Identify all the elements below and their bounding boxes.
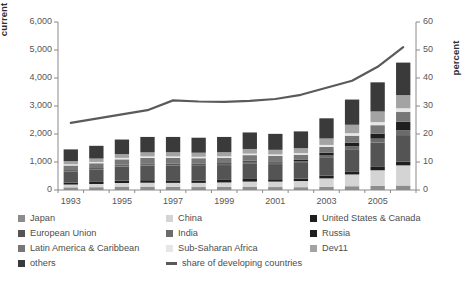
bar-segment <box>217 165 231 180</box>
bar-segment <box>294 148 308 153</box>
y-tick-label-left: 6,000 <box>6 16 52 26</box>
bar-segment <box>243 179 257 182</box>
bar-segment <box>243 187 257 190</box>
bar-segment <box>166 165 180 166</box>
x-tick-label: 2003 <box>304 196 350 206</box>
bar-segment <box>140 156 154 158</box>
y-tick-label-right: 10 <box>423 156 457 166</box>
legend-item[interactable]: Japan <box>18 214 55 223</box>
bar-segment <box>115 159 129 164</box>
bar-segment <box>115 187 129 190</box>
bar-segment <box>140 152 154 156</box>
bar-segment <box>370 134 384 139</box>
bar-segment <box>396 135 410 162</box>
bar-segment <box>396 122 410 130</box>
bar-segment <box>191 165 205 166</box>
bar-segment <box>345 174 359 186</box>
bar-segment <box>89 184 103 187</box>
bar-segment <box>140 187 154 190</box>
bar-segment <box>345 125 359 133</box>
plot-area <box>58 22 416 190</box>
bar-segment <box>217 180 231 183</box>
bar-segment <box>166 158 180 164</box>
bar-stack <box>396 63 410 190</box>
legend-item[interactable]: Latin America & Caribbean <box>18 244 139 253</box>
y-tick-label-left: 1,000 <box>6 156 52 166</box>
bar-stack <box>89 146 103 190</box>
bar-segment <box>243 162 257 164</box>
bar-segment <box>294 161 308 163</box>
bar-segment <box>191 166 205 181</box>
bar-segment <box>370 167 384 170</box>
legend-color-swatch <box>166 230 173 237</box>
legend-item[interactable]: United States & Canada <box>310 214 421 223</box>
legend-item-label: Latin America & Caribbean <box>30 244 139 253</box>
bar-segment <box>345 143 359 147</box>
legend-color-swatch <box>18 215 25 222</box>
bar-segment <box>166 137 180 152</box>
bar-segment <box>140 166 154 181</box>
bar-segment <box>140 165 154 166</box>
legend-color-swatch <box>18 245 25 252</box>
legend-item-label: China <box>178 214 202 223</box>
bar-segment <box>217 158 231 163</box>
bar-segment <box>396 162 410 166</box>
legend-item[interactable]: Russia <box>310 229 350 238</box>
bar-segment <box>89 163 103 168</box>
bar-segment <box>319 138 333 144</box>
bar-segment <box>370 170 384 186</box>
bar-segment <box>115 165 129 166</box>
legend-item[interactable]: Dev11 <box>310 244 348 253</box>
bar-segment <box>268 154 282 156</box>
chart-figure: current US$ (billions) percent 6,0005,00… <box>0 0 468 287</box>
bar-segment <box>217 163 231 164</box>
bar-segment <box>268 150 282 155</box>
bar-segment <box>345 133 359 136</box>
bar-segment <box>64 161 78 164</box>
bar-stack <box>64 149 78 190</box>
bar-segment <box>345 100 359 125</box>
bar-stack <box>140 137 154 190</box>
bar-segment <box>217 137 231 152</box>
x-tick-label: 1999 <box>201 196 247 206</box>
legend-color-swatch <box>310 215 317 222</box>
bar-segment <box>294 163 308 179</box>
bar-stack <box>166 137 180 190</box>
bar-segment <box>396 95 410 108</box>
bar-stack <box>294 131 308 190</box>
y-tick-label-right: 30 <box>423 100 457 110</box>
bar-segment <box>115 181 129 183</box>
bar-segment <box>370 186 384 190</box>
bar-stack <box>191 138 205 190</box>
legend-color-swatch <box>18 260 25 267</box>
bar-segment <box>370 139 384 143</box>
bar-segment <box>140 158 154 164</box>
y-tick-label-left: 0 <box>6 184 52 194</box>
legend-item[interactable]: share of developing countries <box>166 259 302 268</box>
y-tick-label-left: 4,000 <box>6 72 52 82</box>
legend-item[interactable]: others <box>18 259 56 268</box>
legend-item[interactable]: European Union <box>18 229 96 238</box>
legend-item[interactable]: China <box>166 214 202 223</box>
bar-segment <box>115 140 129 155</box>
y-tick-label-left: 3,000 <box>6 100 52 110</box>
bar-segment <box>166 156 180 158</box>
bar-segment <box>140 180 154 183</box>
bar-segment <box>166 166 180 181</box>
bar-segment <box>217 182 231 186</box>
bar-segment <box>396 63 410 95</box>
legend-item[interactable]: Sub-Saharan Africa <box>166 244 258 253</box>
bar-segment <box>345 186 359 190</box>
bar-segment <box>268 161 282 162</box>
bar-segment <box>115 158 129 159</box>
bar-segment <box>64 166 78 170</box>
bar-segment <box>345 146 359 149</box>
legend-item[interactable]: India <box>166 229 198 238</box>
bar-segment <box>370 143 384 167</box>
bar-segment <box>64 149 78 161</box>
bar-segment <box>294 131 308 148</box>
y-tick-label-right: 0 <box>423 184 457 194</box>
bar-segment <box>140 137 154 152</box>
bar-segment <box>243 132 257 149</box>
bar-segment <box>396 112 410 122</box>
